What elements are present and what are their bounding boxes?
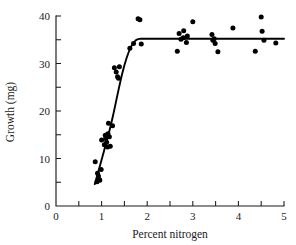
data-point	[108, 144, 113, 149]
x-axis-title: Percent nitrogen	[132, 228, 208, 241]
data-point	[110, 123, 115, 128]
data-point	[184, 40, 189, 45]
data-point	[97, 178, 102, 183]
x-tick-label: 1	[99, 210, 105, 222]
data-point	[190, 19, 195, 24]
data-point	[112, 65, 117, 70]
data-point	[181, 28, 186, 33]
data-point	[215, 49, 220, 54]
data-point	[116, 76, 121, 81]
y-tick-label: 0	[45, 200, 51, 212]
x-tick-label: 2	[144, 210, 150, 222]
data-point	[107, 134, 112, 139]
data-point	[139, 42, 144, 47]
data-point	[117, 64, 122, 69]
x-tick-label: 4	[236, 210, 242, 222]
data-point	[177, 31, 182, 36]
data-point	[230, 25, 235, 30]
data-point	[175, 49, 180, 54]
data-point	[213, 41, 218, 46]
data-point	[127, 46, 132, 51]
data-point	[99, 167, 104, 172]
data-point	[209, 32, 214, 37]
x-tick-label: 0	[53, 210, 59, 222]
y-axis-title: Growth (mg)	[4, 82, 17, 143]
y-tick-label: 10	[39, 153, 51, 165]
y-tick-label: 40	[39, 10, 51, 22]
data-point	[185, 33, 190, 38]
data-point	[253, 49, 258, 54]
data-point	[114, 70, 119, 75]
chart-svg: 012345 010203040 Percent nitrogen Growth…	[0, 0, 296, 245]
growth-vs-nitrogen-chart: 012345 010203040 Percent nitrogen Growth…	[0, 0, 296, 245]
data-point	[104, 140, 109, 145]
data-point	[260, 29, 265, 34]
x-tick-label: 3	[190, 210, 196, 222]
data-point	[137, 17, 142, 22]
data-point	[131, 41, 136, 46]
data-point	[259, 14, 264, 19]
data-point	[273, 41, 278, 46]
y-tick-label: 30	[39, 58, 51, 70]
x-tick-label: 5	[281, 210, 287, 222]
y-tick-label: 20	[39, 105, 51, 117]
data-point	[212, 36, 217, 41]
data-point	[93, 159, 98, 164]
data-point	[261, 38, 266, 43]
